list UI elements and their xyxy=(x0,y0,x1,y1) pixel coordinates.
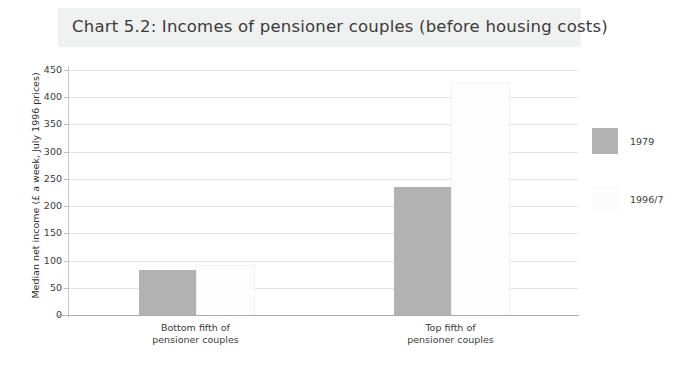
y-tick-mark xyxy=(64,97,68,98)
legend-item-1996-7[interactable]: 1996/7 xyxy=(592,186,677,244)
y-tick-mark xyxy=(64,261,68,262)
legend-label: 1979 xyxy=(630,136,654,147)
bars-layer xyxy=(68,70,578,315)
x-category-label: Top fifth ofpensioner couples xyxy=(371,322,531,346)
y-tick-mark xyxy=(64,315,68,316)
y-tick-mark xyxy=(64,124,68,125)
legend: 19791996/7 xyxy=(592,128,677,244)
y-tick-mark xyxy=(64,206,68,207)
y-tick-label: 350 xyxy=(28,119,62,129)
y-tick-mark xyxy=(64,233,68,234)
x-label-line: pensioner couples xyxy=(116,334,276,346)
y-tick-mark xyxy=(64,288,68,289)
chart-title: Chart 5.2: Incomes of pensioner couples … xyxy=(72,17,608,36)
y-tick-label: 450 xyxy=(28,65,62,75)
y-tick-label: 400 xyxy=(28,92,62,102)
y-tick-label: 50 xyxy=(28,283,62,293)
legend-swatch-1996-7 xyxy=(592,186,618,212)
y-tick-label: 150 xyxy=(28,228,62,238)
x-category-label: Bottom fifth ofpensioner couples xyxy=(116,322,276,346)
x-label-line: Top fifth of xyxy=(371,322,531,334)
y-tick-mark xyxy=(64,70,68,71)
chart-page: Chart 5.2: Incomes of pensioner couples … xyxy=(0,0,681,371)
y-tick-label: 300 xyxy=(28,147,62,157)
y-tick-label: 200 xyxy=(28,201,62,211)
x-label-line: Bottom fifth of xyxy=(116,322,276,334)
x-axis-line xyxy=(58,315,579,316)
y-tick-mark xyxy=(64,179,68,180)
legend-swatch-1979 xyxy=(592,128,618,154)
legend-item-1979[interactable]: 1979 xyxy=(592,128,677,186)
y-axis-tick-labels: 450400350300250200150100500 xyxy=(26,70,62,315)
y-tick-label: 250 xyxy=(28,174,62,184)
x-axis-category-labels: Bottom fifth ofpensioner couplesTop fift… xyxy=(68,322,578,354)
y-tick-label: 0 xyxy=(28,310,62,320)
bar-1996-7-1 xyxy=(196,265,255,315)
bar-1979-2 xyxy=(394,187,451,315)
legend-label: 1996/7 xyxy=(630,194,663,205)
bar-1979-1 xyxy=(139,270,196,315)
y-tick-mark xyxy=(64,152,68,153)
bar-1996-7-2 xyxy=(451,83,510,315)
x-label-line: pensioner couples xyxy=(371,334,531,346)
y-tick-label: 100 xyxy=(28,256,62,266)
